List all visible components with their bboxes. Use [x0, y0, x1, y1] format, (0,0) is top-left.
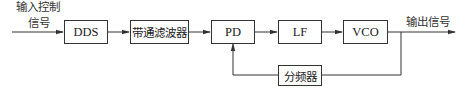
pd-block: PD	[211, 20, 255, 44]
output-label: 输出信号	[406, 16, 450, 29]
input-label-line1: 输入控制	[16, 1, 60, 14]
divider-block: 分频器	[278, 65, 322, 86]
lf-block: LF	[278, 20, 322, 44]
divider-to-pd-arrow	[233, 44, 278, 75]
connection-lines	[0, 0, 462, 96]
input-label-line2: 信号	[28, 17, 50, 30]
dds-block: DDS	[64, 20, 108, 44]
bandpass-filter-block: 带通滤波器	[130, 20, 189, 44]
vco-block: VCO	[343, 20, 388, 44]
